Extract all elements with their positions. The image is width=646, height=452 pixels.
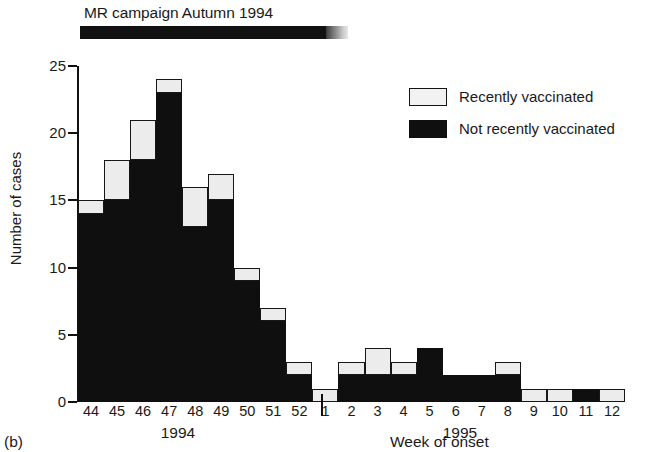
bar-segment-recently-vaccinated [104,160,130,200]
campaign-period-bar [80,26,326,39]
bar-week-8 [495,362,521,402]
bar-segment-not-recently-vaccinated [234,281,260,402]
bar-segment-recently-vaccinated [338,362,364,375]
bar-week-5 [417,348,443,402]
bar-week-12 [599,389,625,402]
bar-segment-recently-vaccinated [78,200,104,213]
bar-segment-not-recently-vaccinated [338,375,364,402]
x-axis-year-1994: 1994 [118,424,238,442]
bar-segment-not-recently-vaccinated [391,375,417,402]
y-tick-15 [68,199,77,201]
x-tick-label-week-12: 12 [593,404,631,419]
bar-week-1 [312,389,338,402]
legend-label-not-recent: Not recently vaccinated [459,118,615,140]
legend: Recently vaccinated Not recently vaccina… [409,86,639,150]
bar-week-47 [156,79,182,402]
bar-week-4 [391,362,417,402]
panel-label: (b) [4,433,23,451]
bar-segment-not-recently-vaccinated [78,214,104,402]
bar-segment-not-recently-vaccinated [365,375,391,402]
y-tick-label-15: 15 [32,192,66,207]
y-tick-5 [68,334,77,336]
y-tick-20 [68,132,77,134]
y-tick-label-5: 5 [32,327,66,342]
legend-swatch-icon-recent [409,88,447,106]
bar-segment-not-recently-vaccinated [417,348,443,402]
y-tick-label-25: 25 [32,58,66,73]
bar-segment-not-recently-vaccinated [182,227,208,402]
bar-week-44 [78,200,104,402]
y-tick-label-0: 0 [32,394,66,409]
bar-week-51 [260,308,286,402]
bar-week-50 [234,268,260,402]
bar-segment-recently-vaccinated [521,389,547,402]
bar-week-2 [338,362,364,402]
y-tick-labels: 0510152025 [22,0,66,452]
bar-segment-recently-vaccinated [130,120,156,160]
bar-segment-recently-vaccinated [495,362,521,375]
bar-week-3 [365,348,391,402]
x-axis-title: Week of onset [390,433,590,451]
bar-segment-not-recently-vaccinated [208,200,234,402]
bar-segment-recently-vaccinated [599,389,625,402]
bar-segment-recently-vaccinated [156,79,182,92]
bar-segment-not-recently-vaccinated [260,321,286,402]
bar-segment-not-recently-vaccinated [286,375,312,402]
y-tick-25 [68,65,77,67]
bar-segment-not-recently-vaccinated [443,375,469,402]
campaign-annotation-label: MR campaign Autumn 1994 [84,4,273,22]
bar-week-7 [469,375,495,402]
bar-segment-not-recently-vaccinated [573,389,599,402]
campaign-period-bar-fade [326,26,348,39]
bar-segment-recently-vaccinated [234,268,260,281]
y-axis-title: Number of cases [7,114,24,304]
bar-week-6 [443,375,469,402]
y-tick-0 [68,401,77,403]
bar-segment-recently-vaccinated [260,308,286,321]
legend-item-recently-vaccinated: Recently vaccinated [409,86,639,111]
bar-segment-recently-vaccinated [208,174,234,201]
bar-week-10 [547,389,573,402]
bar-week-45 [104,160,130,402]
bar-segment-not-recently-vaccinated [469,375,495,402]
legend-item-not-recently-vaccinated: Not recently vaccinated [409,118,639,143]
bar-week-52 [286,362,312,402]
bar-week-46 [130,120,156,402]
bar-week-48 [182,187,208,402]
y-tick-10 [68,267,77,269]
bar-segment-recently-vaccinated [547,389,573,402]
bar-segment-not-recently-vaccinated [104,200,130,402]
bar-segment-not-recently-vaccinated [156,93,182,402]
legend-swatch-icon-not-recent [409,120,447,138]
y-tick-label-20: 20 [32,125,66,140]
bar-week-9 [521,389,547,402]
figure-panel: MR campaign Autumn 1994 Number of cases … [0,0,646,452]
bar-week-11 [573,389,599,402]
bar-segment-recently-vaccinated [312,389,338,402]
bar-segment-not-recently-vaccinated [495,375,521,402]
bar-segment-recently-vaccinated [182,187,208,227]
bar-segment-recently-vaccinated [391,362,417,375]
y-tick-label-10: 10 [32,260,66,275]
bar-segment-recently-vaccinated [286,362,312,375]
bar-week-49 [208,174,234,402]
legend-label-recent: Recently vaccinated [459,86,593,108]
bar-segment-not-recently-vaccinated [130,160,156,402]
bar-segment-recently-vaccinated [365,348,391,375]
